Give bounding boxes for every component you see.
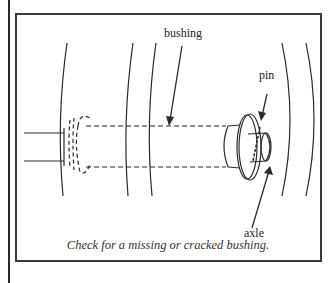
flange-outer (239, 114, 261, 180)
wheel-arc-center (149, 43, 156, 196)
bushing-cylinder (224, 126, 228, 167)
wheel-arc-right-outer (306, 43, 314, 196)
flange-inner (237, 115, 257, 179)
bushing-hole-dashed (69, 116, 90, 173)
axle-end (248, 133, 270, 162)
label-bushing: bushing (164, 26, 202, 41)
label-pin: pin (259, 68, 274, 83)
wheel-arc-left-inner (126, 43, 133, 196)
axle-dashed-outline (86, 126, 226, 167)
wheel-arc-right-inner (282, 43, 290, 196)
wheel-arc-left-outer (60, 43, 67, 196)
figure-caption: Check for a missing or cracked bushing. (0, 238, 336, 253)
